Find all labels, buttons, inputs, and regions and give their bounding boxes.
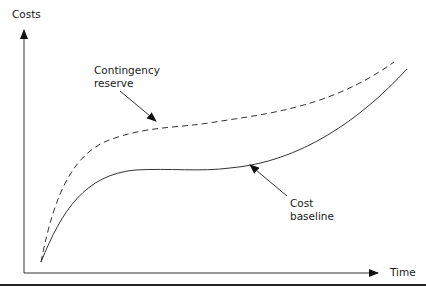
baseline-label-line1: Cost	[290, 197, 313, 210]
contingency-reserve-curve	[41, 62, 394, 262]
contingency-label-line2: reserve	[94, 77, 133, 90]
cost-baseline-diagram	[0, 0, 426, 290]
x-axis-label: Time	[390, 266, 416, 279]
baseline-arrow	[250, 165, 287, 196]
bottom-rule	[0, 284, 426, 286]
y-axis-label: Costs	[12, 8, 41, 21]
baseline-label-line2: baseline	[290, 210, 334, 223]
contingency-label-line1: Contingency	[94, 64, 160, 77]
cost-baseline-curve	[41, 69, 407, 262]
contingency-arrow	[120, 91, 156, 121]
